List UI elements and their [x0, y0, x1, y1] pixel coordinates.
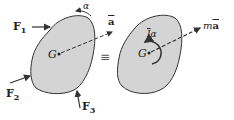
moment-alpha-symbol: α	[151, 29, 157, 39]
left-center-of-mass-dot	[58, 53, 61, 56]
left-center-of-mass-label: G	[48, 49, 57, 60]
force-f3-arrow	[77, 91, 80, 108]
force-f2-arrow	[10, 76, 30, 83]
force-f1-name: F	[13, 20, 21, 33]
force-f2-name: F	[6, 87, 14, 100]
force-f3-name: F	[82, 100, 90, 113]
right-rigid-body	[117, 15, 181, 93]
inertia-force-label: ma	[203, 21, 219, 31]
force-f3-label: F3	[82, 101, 95, 114]
diagram-graphics	[0, 0, 234, 120]
right-center-of-mass-dot	[148, 52, 151, 55]
inertia-moment-label: Iα	[147, 30, 157, 39]
diagram-canvas: F1 F2 F3 G α a ≡ G Iα ma	[0, 0, 234, 120]
force-f1-label: F1	[13, 21, 26, 34]
force-f2-label: F2	[6, 88, 19, 101]
angular-acceleration-label: α	[83, 2, 89, 11]
inertia-accel-symbol: a	[212, 20, 218, 31]
force-f3-sub: 3	[90, 105, 96, 115]
force-f1-sub: 1	[21, 25, 27, 35]
acceleration-label: a	[108, 17, 114, 27]
force-f2-sub: 2	[14, 92, 20, 102]
equivalence-sign: ≡	[100, 51, 110, 63]
right-center-of-mass-label: G	[138, 48, 147, 59]
